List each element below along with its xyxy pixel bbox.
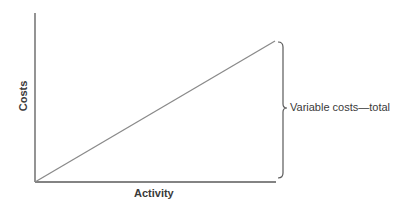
chart: Costs Activity Variable costs—total: [0, 0, 408, 211]
annotation-label: Variable costs—total: [290, 101, 390, 113]
brace-icon: [278, 42, 287, 178]
x-axis-label: Activity: [134, 187, 174, 199]
y-axis-label: Costs: [17, 76, 29, 116]
variable-cost-line: [35, 41, 275, 182]
